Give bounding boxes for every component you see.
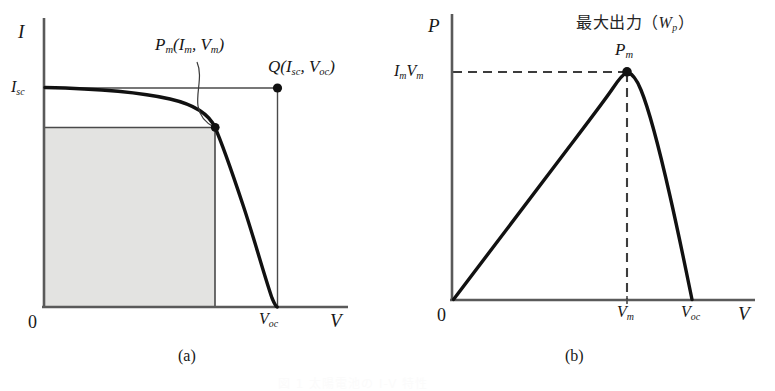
- q-label-sep: , V: [300, 57, 319, 76]
- q-label-close: ): [329, 57, 335, 76]
- pm-label-main: P: [155, 35, 165, 54]
- panel-a-y-axis-label: I: [18, 22, 24, 41]
- q-label-arg2-sub: oc: [319, 66, 329, 77]
- max-output-close: ）: [678, 13, 695, 32]
- max-output-annotation: 最大出力（Wp）: [576, 15, 694, 33]
- q-label-main: Q: [268, 57, 280, 76]
- figure-bottom-caption: 図 1 太陽電池の I-V 特性: [278, 374, 428, 391]
- voc-tick-var: V: [681, 303, 691, 320]
- vm-var: V: [406, 62, 416, 79]
- pm-point-label: Pm(Im, Vm): [155, 36, 224, 55]
- panel-b-graphics: [450, 14, 755, 304]
- isc-sub: sc: [16, 86, 24, 97]
- pm-label-main-sub: m: [165, 44, 173, 55]
- peak-label-var: P: [615, 40, 625, 59]
- pm-leader-line: [197, 62, 214, 127]
- panel-b-x-axis-label: V: [738, 304, 750, 323]
- q-point-label: Q(Isc, Voc): [268, 58, 335, 77]
- panel-a-origin-label: 0: [28, 313, 37, 331]
- pm-peak-marker: [622, 67, 632, 77]
- pm-label-args: (I: [173, 35, 184, 54]
- vm-tick-var: V: [617, 303, 627, 320]
- panel-b-caption: (b): [565, 348, 584, 364]
- pm-peak-label: Pm: [615, 41, 633, 60]
- wp-var: W: [659, 14, 673, 31]
- vm-sub: m: [416, 70, 423, 81]
- panel-a-x-axis-label: V: [330, 311, 342, 330]
- panel-b-voc-tick-label: Voc: [681, 304, 700, 322]
- pv-characteristic-curve: [454, 72, 693, 299]
- panel-a-voc-tick-label: Voc: [259, 311, 278, 329]
- panel-b-vm-tick-label: Vm: [617, 304, 634, 322]
- q-label-args: (I: [280, 57, 291, 76]
- panel-b-origin-label: 0: [437, 306, 446, 324]
- peak-label-sub: m: [625, 49, 633, 60]
- q-point-marker: [273, 83, 282, 92]
- pm-label-arg1-sub: m: [184, 44, 192, 55]
- pm-label-close: ): [218, 35, 224, 54]
- panel-b-y-axis-label: P: [428, 16, 440, 35]
- voc-tick-sub: oc: [691, 311, 700, 322]
- voc-sub: oc: [269, 318, 278, 329]
- max-output-text: 最大出力（: [576, 13, 659, 32]
- vm-tick-sub: m: [627, 311, 634, 322]
- panel-a-isc-tick-label: Isc: [11, 79, 25, 97]
- max-power-rectangle: [45, 128, 215, 308]
- pm-point-marker: [211, 123, 220, 132]
- panel-b-imvm-tick-label: ImVm: [394, 63, 423, 81]
- pm-label-sep: , V: [192, 35, 211, 54]
- panel-a-caption: (a): [178, 348, 196, 364]
- voc-var: V: [259, 310, 269, 327]
